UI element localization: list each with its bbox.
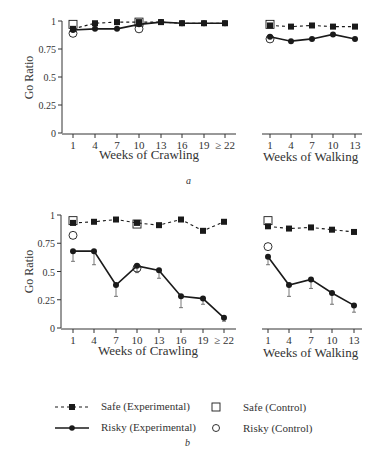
safe-experimental-marker — [309, 22, 315, 28]
x-tick-label: 19 — [198, 334, 210, 346]
safe-experimental-marker — [352, 24, 358, 30]
safe-experimental-marker — [329, 227, 335, 233]
risky-experimental-marker — [308, 276, 314, 282]
safe-experimental-marker — [134, 220, 140, 226]
risky-control-marker — [69, 231, 77, 239]
y-tick-label: 0.75 — [39, 44, 57, 55]
risky-experimental-marker — [286, 282, 292, 288]
risky-experimental-marker — [70, 248, 76, 254]
safe-experimental-marker — [114, 19, 120, 25]
safe-experimental-marker — [267, 22, 273, 28]
risky-experimental-marker — [91, 248, 97, 254]
panel-a-crawling-xlabel: Weeks of Crawling — [99, 147, 199, 163]
x-tick-label: 1 — [70, 334, 76, 346]
risky-experimental-marker — [92, 26, 98, 32]
x-tick-label: 1 — [70, 139, 76, 151]
legend-safe-experimental: Safe (Experimental) — [101, 400, 190, 412]
risky-experimental-marker — [222, 20, 228, 26]
risky-experimental-marker — [330, 31, 336, 37]
x-tick-label: 4 — [92, 139, 98, 151]
safe-experimental-marker — [351, 229, 357, 235]
risky-experimental-marker — [179, 20, 185, 26]
figure: 00.250.50.75114710131619≥ 22147101300.25… — [0, 0, 375, 461]
y-tick-label: 0.5 — [43, 267, 56, 278]
x-tick-label: 19 — [199, 139, 211, 151]
y-tick-label: 0 — [50, 323, 55, 334]
panel-b-letter: b — [185, 437, 190, 448]
y-tick-label: 0.5 — [44, 72, 57, 83]
legend-risky-control: Risky (Control) — [243, 422, 312, 434]
y-tick-label: 0.25 — [38, 295, 56, 306]
panel-b-crawling-xlabel: Weeks of Crawling — [98, 343, 198, 359]
safe-experimental-marker — [221, 219, 227, 225]
safe-experimental-marker — [91, 219, 97, 225]
safe-experimental-marker — [178, 217, 184, 223]
risky-experimental-marker — [351, 302, 357, 308]
risky-experimental-marker — [309, 36, 315, 42]
x-tick-label: ≥ 22 — [214, 334, 234, 346]
legend-safe-control: Safe (Control) — [243, 401, 306, 413]
risky-experimental-marker — [221, 315, 227, 321]
y-tick-label: 1 — [50, 210, 55, 221]
risky-experimental-marker — [200, 296, 206, 302]
y-tick-label: 0 — [51, 128, 56, 139]
legend-filled-square-icon — [69, 404, 75, 410]
risky-experimental-line — [73, 251, 224, 318]
x-tick-label: 4 — [91, 334, 97, 346]
safe-experimental-marker — [113, 217, 119, 223]
safe-experimental-marker — [286, 226, 292, 232]
risky-experimental-marker — [158, 19, 164, 25]
risky-experimental-marker — [288, 38, 294, 44]
legend-open-square-icon — [212, 403, 220, 411]
panel-a-walking-xlabel: Weeks of Walking — [263, 149, 358, 165]
safe-experimental-marker — [330, 24, 336, 30]
safe-experimental-marker — [200, 228, 206, 234]
panel-b-walking-xlabel: Weeks of Walking — [263, 345, 358, 361]
y-tick-label: 0.25 — [39, 100, 57, 111]
risky-experimental-marker — [156, 267, 162, 273]
panel-a-letter: a — [186, 175, 191, 186]
safe-experimental-marker — [92, 20, 98, 26]
y-tick-label: 1 — [51, 16, 56, 27]
safe-experimental-marker — [308, 224, 314, 230]
legend-filled-circle-icon — [69, 425, 75, 431]
risky-control-marker — [264, 243, 272, 251]
risky-experimental-marker — [201, 20, 207, 26]
risky-experimental-marker — [329, 290, 335, 296]
risky-experimental-marker — [265, 254, 271, 260]
x-tick-label: ≥ 22 — [215, 139, 235, 151]
panel-a-ylabel: Go Ratio — [22, 56, 37, 100]
legend-open-circle-icon — [213, 425, 220, 432]
safe-experimental-marker — [156, 222, 162, 228]
safe-experimental-marker — [288, 24, 294, 30]
y-tick-label: 0.75 — [38, 238, 56, 249]
risky-experimental-marker — [113, 282, 119, 288]
risky-experimental-marker — [114, 26, 120, 32]
legend-risky-experimental: Risky (Experimental) — [101, 421, 196, 433]
panel-b-ylabel: Go Ratio — [22, 250, 37, 294]
chart-canvas: 00.250.50.75114710131619≥ 22147101300.25… — [0, 0, 375, 461]
risky-experimental-marker — [352, 36, 358, 42]
risky-experimental-marker — [178, 293, 184, 299]
